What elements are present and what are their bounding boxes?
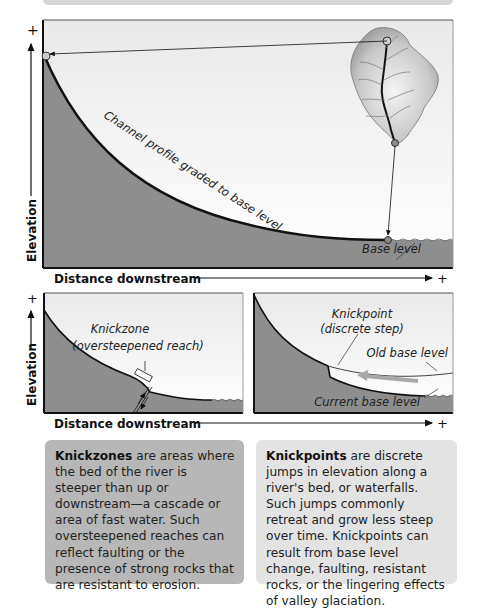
current-base-level-label: Current base level [314, 395, 421, 409]
knickzones-info-box: Knickzones are areas where the bed of th… [45, 440, 244, 584]
knickpoints-description: are discrete jumps in elevation along a … [266, 449, 445, 608]
knickpoint-label: Knickpoint [332, 307, 393, 321]
knickzones-term: Knickzones [55, 449, 132, 463]
river-profile-diagram: Channel profile graded to base level Bas… [0, 0, 484, 440]
x-axis-plus: + [437, 271, 448, 286]
bottom-y-axis-label: Elevation [25, 343, 39, 406]
top-profile-panel: Channel profile graded to base level Bas… [22, 20, 453, 286]
y-axis-plus: + [27, 22, 39, 38]
base-level-label: Base level [362, 242, 422, 256]
x-axis-label: Distance downstream [54, 272, 201, 286]
bottom-y-axis-plus: + [27, 291, 38, 306]
knickpoints-info-box: Knickpoints are discrete jumps in elevat… [256, 440, 457, 584]
knickzone-panel: Knickzone (oversteepened reach) [44, 293, 243, 413]
knickpoints-term: Knickpoints [266, 449, 347, 463]
old-base-level-label: Old base level [366, 346, 448, 360]
knickzones-description: are areas where the bed of the river is … [55, 449, 235, 592]
bottom-x-axis-label: Distance downstream [54, 417, 201, 431]
knickzone-label: Knickzone [91, 322, 149, 336]
knickpoint-sublabel: (discrete step) [320, 322, 404, 336]
knickpoint-panel: Knickpoint (discrete step) Old base leve… [254, 293, 453, 413]
bottom-x-axis-plus: + [437, 416, 448, 431]
headwater-point [42, 52, 50, 60]
knickzone-sublabel: (oversteepened reach) [72, 339, 203, 353]
y-axis-label: Elevation [25, 199, 39, 262]
